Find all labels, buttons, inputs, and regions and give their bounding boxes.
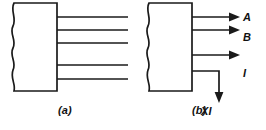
arrowhead-right-a-icon — [229, 13, 240, 22]
signal-label-a: A — [243, 12, 251, 23]
signal-label-b: B — [243, 32, 251, 43]
panel-a-block-face — [12, 3, 57, 91]
panel-b-block-face — [147, 3, 192, 91]
panel-caption-a: (a) — [58, 105, 72, 116]
panel-caption-b: (b) — [192, 105, 206, 116]
figure-container: A B I XI (a) (b) — [0, 0, 266, 130]
arrowhead-right-b-icon — [229, 26, 240, 35]
arrowhead-right-i-icon — [229, 51, 240, 60]
arrowhead-down-xi-icon — [215, 92, 224, 103]
panel-a-group — [12, 3, 128, 91]
panel-b-group — [147, 3, 240, 103]
figure-linework — [0, 0, 266, 130]
signal-label-i: I — [243, 68, 246, 79]
